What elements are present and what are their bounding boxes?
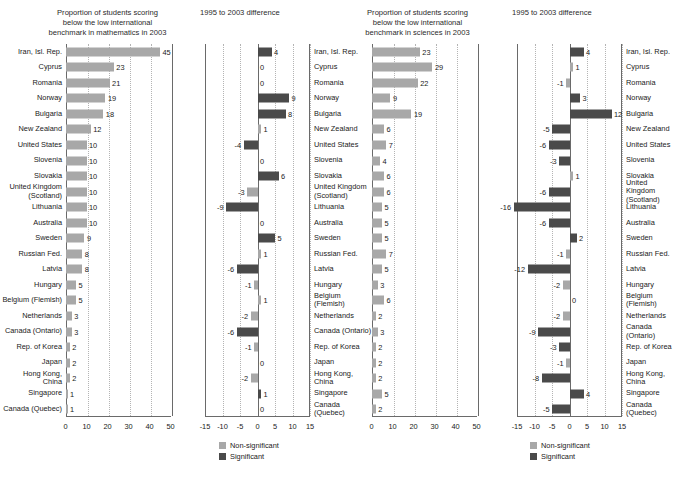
category-label-text: Slovenia [626, 156, 654, 164]
bar-value-label: -6 [539, 187, 546, 196]
bar-4-0 [570, 47, 584, 56]
table-row: -6 [517, 184, 622, 200]
bar-value-label: 1 [576, 172, 580, 181]
category-label-text: Iran, Isl. Rep. [626, 48, 670, 56]
table-row: -5 [517, 401, 622, 417]
category-label-text: Russian Fed. [626, 250, 670, 258]
category-label-text: Australia [626, 219, 655, 227]
bar-value-label: -1 [557, 249, 564, 258]
panel-title-4: 1995 to 2003 difference [512, 8, 675, 18]
bar-4-19 [559, 343, 570, 352]
bar-value-label: 0 [572, 296, 576, 305]
category-label-text: Romania [626, 79, 656, 87]
bar-4-5 [552, 125, 570, 134]
bar-4-12 [570, 234, 577, 243]
category-label-text: Singapore [626, 389, 660, 397]
legend-item-significant: Significant [530, 452, 590, 461]
category-label-text: Rep. of Korea [626, 343, 672, 351]
table-row: -3 [517, 339, 622, 355]
category-label-text: Canada (Quebec) [626, 401, 674, 418]
bar-value-label: 4 [586, 47, 590, 56]
bar-4-7 [559, 156, 570, 165]
x-tick-label: 15 [611, 422, 633, 431]
gridline-15 [622, 44, 623, 416]
bar-4-23 [552, 405, 570, 414]
bar-4-14 [528, 265, 570, 274]
bar-4-6 [549, 141, 570, 150]
table-row: 1 [517, 168, 622, 184]
bar-value-label: -1 [557, 78, 564, 87]
table-row: 0 [517, 293, 622, 309]
category-label: Canada (Quebec) [626, 400, 674, 418]
bar-value-label: 4 [586, 389, 590, 398]
table-row: -6 [517, 137, 622, 153]
bar-value-label: -2 [553, 311, 560, 320]
bar-value-label: 12 [614, 109, 622, 118]
category-label-text: Lithuania [626, 203, 656, 211]
category-label-text: Sweden [626, 234, 653, 242]
table-row: 1 [517, 60, 622, 76]
bar-value-label: -2 [553, 280, 560, 289]
table-row: 3 [517, 91, 622, 107]
category-label-text: Norway [626, 94, 651, 102]
bar-value-label: 1 [576, 63, 580, 72]
table-row: 2 [517, 231, 622, 247]
bar-value-label: -8 [532, 374, 539, 383]
chart-panel-4: 1995 to 2003 difference41-1312-5-6-31-6-… [0, 0, 675, 486]
category-label-text: United States [626, 141, 670, 149]
table-row: 4 [517, 44, 622, 60]
bar-value-label: -16 [500, 203, 511, 212]
bar-value-label: -3 [550, 343, 557, 352]
table-row: -3 [517, 153, 622, 169]
category-label-text: Latvia [626, 265, 646, 273]
bar-4-2 [566, 78, 570, 87]
bar-4-10 [514, 203, 570, 212]
bar-4-9 [549, 187, 570, 196]
table-row: -2 [517, 277, 622, 293]
bar-value-label: -9 [529, 327, 536, 336]
table-row: -16 [517, 199, 622, 215]
bar-4-4 [570, 109, 612, 118]
category-label-text: New Zealand [626, 125, 670, 133]
legend-label: Non-significant [541, 441, 590, 450]
bar-4-1 [570, 63, 574, 72]
category-label-text: Hungary [626, 281, 654, 289]
legend-swatch-ns-icon [530, 442, 537, 449]
bar-value-label: -6 [539, 218, 546, 227]
bar-4-8 [570, 172, 574, 181]
bar-4-11 [549, 218, 570, 227]
legend-item-non_significant: Non-significant [530, 441, 590, 450]
category-label-text: Netherlands [626, 312, 666, 320]
bar-value-label: -6 [539, 141, 546, 150]
category-label-text: Cyprus [626, 63, 649, 71]
table-row: -12 [517, 262, 622, 278]
figure-sheet: Proportion of students scoring below the… [0, 0, 675, 486]
chart-legend-4: Non-significantSignificant [530, 441, 590, 463]
bar-4-21 [542, 374, 570, 383]
bar-4-22 [570, 389, 584, 398]
table-row: 4 [517, 386, 622, 402]
bar-value-label: -1 [557, 358, 564, 367]
bar-value-label: -5 [543, 405, 550, 414]
table-row: -1 [517, 355, 622, 371]
bar-4-20 [566, 358, 570, 367]
bar-4-18 [538, 327, 570, 336]
bar-4-13 [566, 249, 570, 258]
bar-value-label: -5 [543, 125, 550, 134]
bar-4-3 [570, 94, 581, 103]
category-label-text: Japan [626, 358, 646, 366]
table-row: -5 [517, 122, 622, 138]
table-row: -6 [517, 215, 622, 231]
table-row: -1 [517, 75, 622, 91]
table-row: -1 [517, 246, 622, 262]
table-row: -8 [517, 370, 622, 386]
table-row: -2 [517, 308, 622, 324]
bar-value-label: 2 [579, 234, 583, 243]
bar-4-15 [563, 280, 570, 289]
table-row: 12 [517, 106, 622, 122]
bar-value-label: -3 [550, 156, 557, 165]
table-row: -9 [517, 324, 622, 340]
legend-swatch-sig-icon [530, 453, 537, 460]
bar-value-label: 3 [583, 94, 587, 103]
bar-4-17 [563, 311, 570, 320]
